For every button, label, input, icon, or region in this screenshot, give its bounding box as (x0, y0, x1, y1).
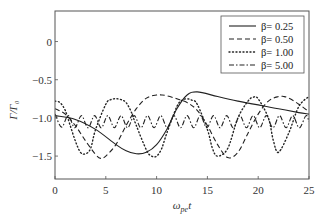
legend-label: β= 0.25 (261, 21, 293, 32)
legend-label: β= 0.50 (261, 34, 293, 45)
legend-label: β= 1.00 (261, 47, 293, 58)
line-chart: 0510152025 0−0.5−1.0−1.5 ωpet Γ/Γ₀ β= 0.… (0, 0, 323, 224)
y-tick-label: −0.5 (32, 74, 52, 86)
x-tick-label: 10 (151, 184, 163, 196)
plot-series (55, 92, 309, 159)
x-tick-label: 20 (253, 184, 265, 196)
y-axis: 0−0.5−1.0−1.5 (32, 36, 58, 163)
series-line-3 (55, 114, 309, 128)
y-tick-label: −1.0 (32, 112, 52, 124)
y-tick-label: 0 (47, 36, 53, 48)
x-axis-label: ωpet (173, 199, 192, 214)
x-tick-label: 25 (304, 184, 316, 196)
legend-label: β= 5.00 (261, 60, 293, 71)
x-tick-label: 15 (202, 184, 214, 196)
series-line-2 (55, 97, 309, 157)
x-tick-label: 5 (103, 184, 109, 196)
x-tick-label: 0 (52, 184, 58, 196)
series-line-0 (55, 92, 309, 154)
y-tick-label: −1.5 (32, 150, 52, 162)
legend: β= 0.25β= 0.50β= 1.00β= 5.00 (221, 16, 304, 73)
y-axis-label: Γ/Γ₀ (7, 100, 19, 121)
